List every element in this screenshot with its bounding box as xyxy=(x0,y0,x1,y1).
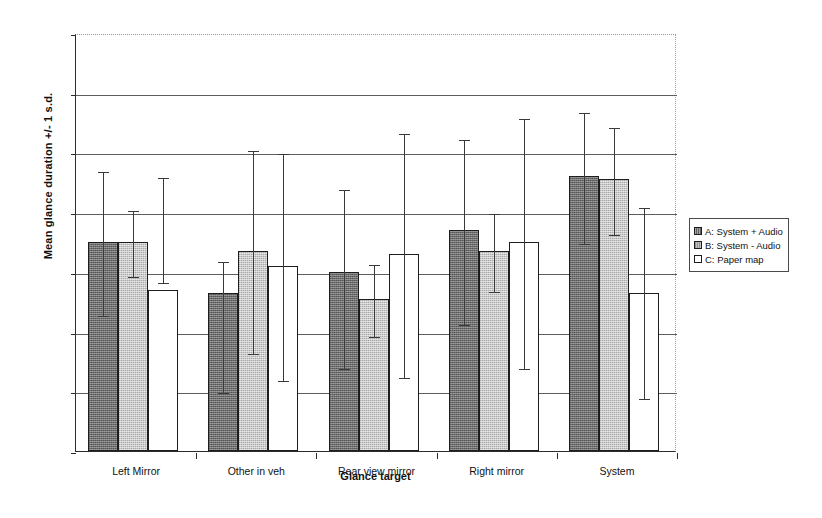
error-cap-high xyxy=(459,140,470,141)
error-cap-low xyxy=(98,316,109,317)
legend-item-c: C: Paper map xyxy=(694,252,784,266)
error-bar-b-4 xyxy=(614,128,615,235)
error-cap-high xyxy=(218,262,229,263)
bar-chart-figure: Mean glance duration +/- 1 s.d. 00.20.40… xyxy=(0,0,822,518)
y-tick-mark xyxy=(71,334,76,335)
error-bar-c-0 xyxy=(163,178,164,283)
error-cap-low xyxy=(218,393,229,394)
legend-label-a: A: System + Audio xyxy=(705,226,783,237)
error-cap-high xyxy=(579,113,590,114)
error-bar-b-1 xyxy=(253,151,254,354)
error-cap-low xyxy=(248,354,259,355)
legend-label-b: B: System - Audio xyxy=(705,240,781,251)
error-cap-high xyxy=(248,151,259,152)
error-bar-c-4 xyxy=(644,208,645,399)
x-tick-mark xyxy=(196,453,197,459)
error-cap-high xyxy=(369,265,380,266)
error-cap-low xyxy=(278,381,289,382)
x-tick-mark xyxy=(677,453,678,459)
legend-label-c: C: Paper map xyxy=(705,254,764,265)
bar-c-0 xyxy=(148,290,178,451)
error-bar-b-3 xyxy=(494,214,495,292)
x-tick-mark xyxy=(316,453,317,459)
error-cap-low xyxy=(519,369,530,370)
error-bar-b-2 xyxy=(374,265,375,337)
y-tick-mark xyxy=(71,274,76,275)
error-bar-c-2 xyxy=(404,134,405,379)
legend: A: System + Audio B: System - Audio C: P… xyxy=(689,218,789,272)
x-axis-title: Glance target xyxy=(75,470,676,482)
error-bar-a-4 xyxy=(584,113,585,244)
error-cap-high xyxy=(639,208,650,209)
error-bar-a-2 xyxy=(344,190,345,369)
error-cap-low xyxy=(579,244,590,245)
legend-item-a: A: System + Audio xyxy=(694,224,784,238)
error-cap-high xyxy=(519,119,530,120)
legend-swatch-b-icon xyxy=(694,241,702,249)
error-cap-low xyxy=(128,277,139,278)
error-cap-low xyxy=(459,325,470,326)
y-axis-title: Mean glance duration +/- 1 s.d. xyxy=(42,46,54,306)
error-bar-b-0 xyxy=(133,211,134,277)
error-bar-a-3 xyxy=(464,140,465,325)
legend-swatch-c-icon xyxy=(694,255,702,263)
error-cap-low xyxy=(609,235,620,236)
error-cap-low xyxy=(369,337,380,338)
error-cap-low xyxy=(489,292,500,293)
error-bar-c-3 xyxy=(524,119,525,370)
error-cap-high xyxy=(278,154,289,155)
error-cap-high xyxy=(399,134,410,135)
error-bar-a-0 xyxy=(103,172,104,315)
x-tick-mark xyxy=(557,453,558,459)
error-cap-high xyxy=(128,211,139,212)
y-tick-mark xyxy=(71,393,76,394)
y-tick-mark xyxy=(71,154,76,155)
legend-item-b: B: System - Audio xyxy=(694,238,784,252)
gridline xyxy=(76,95,677,96)
error-cap-high xyxy=(489,214,500,215)
error-cap-low xyxy=(639,399,650,400)
error-bar-c-1 xyxy=(283,154,284,381)
error-cap-high xyxy=(339,190,350,191)
error-cap-high xyxy=(609,128,620,129)
error-cap-high xyxy=(158,178,169,179)
plot-area: 00.20.40.60.811.21.4 Left MirrorOther in… xyxy=(75,34,676,452)
x-tick-mark xyxy=(437,453,438,459)
error-cap-low xyxy=(158,283,169,284)
y-tick-mark xyxy=(71,453,76,454)
y-tick-mark xyxy=(71,35,76,36)
error-cap-high xyxy=(98,172,109,173)
legend-swatch-a-icon xyxy=(694,227,702,235)
error-cap-low xyxy=(399,378,410,379)
y-tick-mark xyxy=(71,214,76,215)
y-tick-mark xyxy=(71,95,76,96)
error-cap-low xyxy=(339,369,350,370)
error-bar-a-1 xyxy=(223,262,224,393)
gridline xyxy=(76,154,677,155)
